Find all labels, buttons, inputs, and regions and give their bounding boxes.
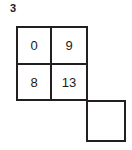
grid-cell-r0c1[interactable]: 9 <box>50 26 88 65</box>
grid-cell-value: 9 <box>65 39 72 52</box>
detached-empty-cell[interactable] <box>86 100 126 142</box>
grid-cell-r0c0[interactable]: 0 <box>16 26 52 65</box>
number-grid: 0 9 8 13 <box>16 26 88 101</box>
grid-cell-value: 8 <box>30 75 37 88</box>
grid-cell-r1c0[interactable]: 8 <box>16 63 52 101</box>
figure-canvas: 3 0 9 8 13 <box>0 0 132 150</box>
grid-cell-r1c1[interactable]: 13 <box>50 63 88 101</box>
grid-cell-value: 0 <box>30 39 37 52</box>
figure-number-label: 3 <box>10 2 16 15</box>
grid-cell-value: 13 <box>62 75 76 88</box>
